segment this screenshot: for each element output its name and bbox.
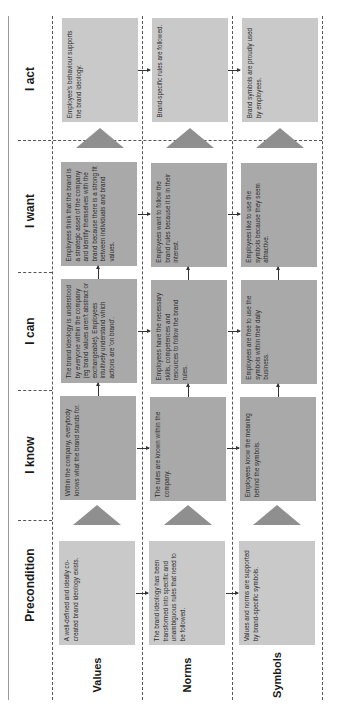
stage-label-text: I know (23, 436, 37, 473)
column-divider (142, 16, 143, 700)
stage-label-text: I can (23, 317, 37, 344)
cell-text: Within the company, everybody knows what… (64, 400, 81, 496)
dimension-label-text: Values (91, 658, 103, 693)
stage-label-act: I act (8, 18, 52, 140)
arrow-right-icon (138, 70, 150, 71)
stage-label-precondition: Precondition (8, 520, 52, 650)
cell-text: Employees think that the brand is a stra… (65, 166, 117, 262)
brand-ideology-diagram: I act I want I can I know Precondition V… (0, 0, 341, 726)
stage-label-want: I want (8, 150, 52, 272)
triangle-icon (253, 505, 301, 525)
arrow-up-icon (98, 383, 99, 396)
cell-know-norms: The rules are known within the company. (150, 397, 226, 501)
cell-can-symbols: Employees are free to use the symbols wi… (241, 280, 317, 384)
cell-text: Employees are free to use the symbols wi… (245, 284, 271, 380)
stage-label-text: I act (23, 67, 37, 91)
triangle-icon (73, 505, 121, 525)
cell-text: A well-defined and ideally co-created br… (63, 545, 80, 641)
triangle-icon (76, 128, 124, 148)
cell-text: Employees have the necessary skills, com… (155, 284, 189, 380)
column-divider (232, 16, 233, 700)
cell-know-values: Within the company, everybody knows what… (60, 396, 136, 500)
cell-precondition-symbols: Values and norms are supported by brand-… (239, 541, 315, 645)
arrow-right-icon (228, 331, 240, 332)
cell-act-values: Employee's behaviour supports the brand … (62, 18, 138, 122)
cell-text: Brand symbols are proudly used by employ… (246, 22, 263, 118)
arrow-up-icon (188, 267, 189, 280)
cell-act-symbols: Brand symbols are proudly used by employ… (242, 18, 318, 122)
cell-precondition-values: A well-defined and ideally co-created br… (59, 541, 135, 645)
cell-text: Brand-specific rules are followed. (156, 22, 165, 118)
cell-want-values: Employees think that the brand is a stra… (61, 162, 137, 266)
triangle-icon (256, 128, 304, 148)
stage-label-know: I know (8, 390, 52, 520)
dimension-label-symbols: Symbols (232, 650, 322, 700)
column-divider (52, 16, 53, 700)
dimension-label-norms: Norms (142, 650, 232, 700)
arrow-right-icon (136, 593, 148, 594)
cell-text: Employees know the meaning behind the sy… (244, 401, 261, 497)
cell-can-values: The brand ideology is understood by ever… (61, 279, 137, 383)
dimension-label-text: Norms (181, 658, 193, 693)
cell-text: The brand ideology is understood by ever… (65, 283, 117, 379)
arrow-right-icon (227, 448, 239, 449)
column-divider (322, 16, 323, 700)
cell-want-norms: Employees want to follow the brand rules… (151, 163, 227, 267)
cell-can-norms: Employees have the necessary skills, com… (151, 280, 227, 384)
cell-text: Values and norms are supported by brand-… (243, 545, 260, 641)
arrow-right-icon (228, 214, 240, 215)
stage-label-can: I can (8, 272, 52, 390)
arrow-up-icon (98, 266, 99, 279)
cell-text: Employee's behaviour supports the brand … (66, 22, 83, 118)
cell-text: Employees want to follow the brand rules… (155, 167, 181, 263)
arrow-right-icon (226, 593, 238, 594)
cell-text: The brand ideology has been transformed … (153, 545, 187, 641)
triangle-icon (164, 505, 212, 525)
stage-label-text: Precondition (23, 548, 37, 621)
stage-label-text: I want (23, 194, 37, 228)
dimension-label-values: Values (52, 650, 142, 700)
arrow-right-icon (138, 214, 150, 215)
cell-know-symbols: Employees know the meaning behind the sy… (240, 397, 316, 501)
cell-precondition-norms: The brand ideology has been transformed … (149, 541, 225, 645)
cell-act-norms: Brand-specific rules are followed. (152, 18, 228, 122)
arrow-right-icon (137, 448, 149, 449)
cell-text: Employees like to use the symbols becaus… (245, 167, 271, 263)
cell-want-symbols: Employees like to use the symbols becaus… (241, 163, 317, 267)
dimension-label-text: Symbols (271, 652, 283, 698)
arrow-up-icon (188, 384, 189, 397)
arrow-up-icon (278, 267, 279, 280)
triangle-icon (166, 128, 214, 148)
arrow-right-icon (138, 331, 150, 332)
arrow-right-icon (228, 70, 240, 71)
arrow-up-icon (278, 384, 279, 397)
cell-text: The rules are known within the company. (154, 401, 171, 497)
